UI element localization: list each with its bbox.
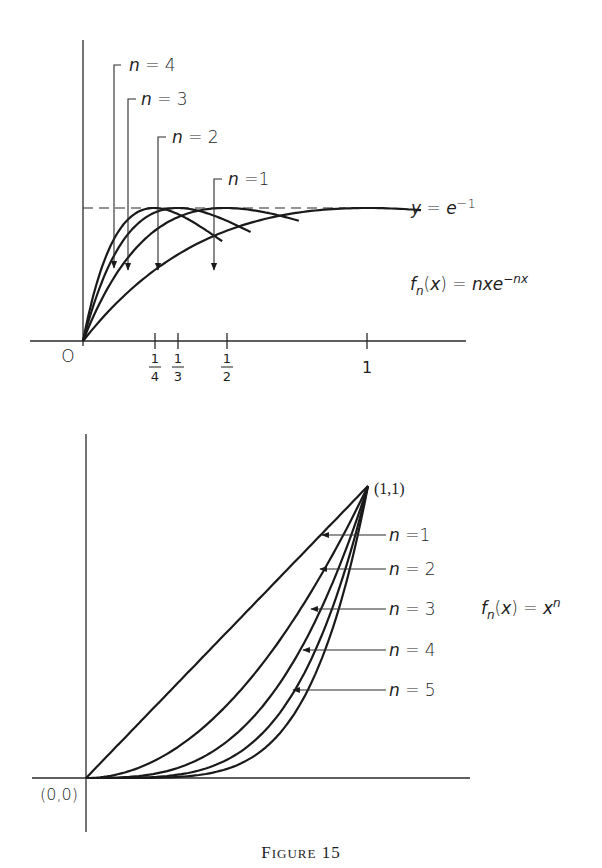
tick-label-quarter: 1 4 bbox=[149, 351, 161, 384]
label-n3: n = 3 bbox=[141, 89, 188, 109]
label-n2: n = 2 bbox=[172, 127, 219, 147]
label-power-n4: n = 4 bbox=[389, 640, 436, 660]
tick-label-one: 1 bbox=[362, 358, 372, 377]
curve-power-n1 bbox=[86, 486, 368, 778]
figure-caption: FIGURE 15 bbox=[261, 843, 340, 862]
bottom-origin-label: (0,0) bbox=[40, 785, 78, 804]
bottom-plot: n =1 n = 2 n = 3 n = 4 n = 5 (1,1) (0,0)… bbox=[32, 434, 561, 832]
label-power-n5: n = 5 bbox=[389, 680, 436, 700]
asymptote-label: y = e−1 bbox=[410, 196, 476, 218]
label-power-n1: n =1 bbox=[389, 525, 430, 545]
leader-n3 bbox=[128, 99, 136, 270]
svg-text:1: 1 bbox=[223, 351, 231, 366]
svg-text:3: 3 bbox=[174, 369, 182, 384]
label-n4: n = 4 bbox=[129, 55, 176, 75]
top-formula: fn(x) = nxe−nx bbox=[410, 272, 529, 298]
label-power-n3: n = 3 bbox=[389, 599, 436, 619]
tick-label-half: 1 2 bbox=[221, 351, 233, 384]
leader-n2 bbox=[158, 137, 166, 270]
bottom-formula: fn(x) = xn bbox=[481, 596, 561, 622]
curve-n2 bbox=[83, 208, 299, 341]
svg-text:1: 1 bbox=[151, 351, 159, 366]
curve-n3 bbox=[83, 208, 251, 341]
top-plot: 1 4 1 3 1 2 1 O n = 4 n = 3 n = 2 n =1 bbox=[30, 40, 529, 384]
svg-text:2: 2 bbox=[223, 369, 231, 384]
top-origin-label: O bbox=[61, 346, 74, 366]
leader-n1 bbox=[214, 179, 222, 270]
tick-label-third: 1 3 bbox=[172, 351, 184, 384]
svg-text:4: 4 bbox=[151, 369, 159, 384]
figure-15: 1 4 1 3 1 2 1 O n = 4 n = 3 n = 2 n =1 bbox=[0, 0, 602, 868]
svg-text:1: 1 bbox=[174, 351, 182, 366]
label-n1: n =1 bbox=[228, 169, 269, 189]
endpoint-label: (1,1) bbox=[374, 480, 405, 498]
label-power-n2: n = 2 bbox=[389, 559, 436, 579]
